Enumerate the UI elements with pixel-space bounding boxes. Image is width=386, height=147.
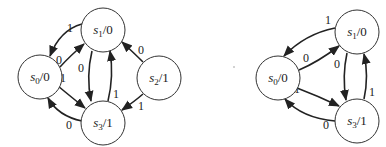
- state-node-s2: s2/1: [137, 56, 181, 100]
- svg-text:s1/0: s1/0: [93, 22, 113, 39]
- scan-dot: [233, 66, 235, 68]
- edge-label-s2-s1: 0: [138, 43, 144, 57]
- edge-label-s3-s0: 0: [66, 118, 72, 132]
- state-output: /0: [357, 24, 367, 39]
- edge-label-s3-s1: 1: [113, 87, 119, 101]
- state-node-s0: s0/0: [18, 55, 62, 99]
- edge-s1-to-s0: [50, 24, 82, 56]
- state-node-s1: s1/0: [335, 10, 379, 54]
- edge-s1-to-s3: [344, 53, 347, 100]
- edge-s1-to-s0: [284, 28, 335, 56]
- edge-s3-to-s1: [108, 51, 112, 101]
- edge-label-s3-s0: 0: [323, 118, 329, 132]
- edge-s1-to-s3: [89, 51, 92, 101]
- edge-label-s2-s3: 1: [138, 99, 144, 113]
- edge-label-s1-s0: 1: [67, 21, 73, 35]
- edge-label-s0-s1: 0: [303, 51, 309, 65]
- state-node-s3: s3/1: [335, 99, 379, 143]
- state-output: /1: [159, 70, 169, 85]
- edge-label-s1-s3: 0: [334, 57, 340, 71]
- state-output: /0: [103, 22, 113, 37]
- edge-label-s1-s0: 1: [325, 13, 331, 27]
- svg-text:s1/0: s1/0: [347, 24, 367, 41]
- svg-text:s3/1: s3/1: [347, 113, 367, 130]
- edge-s0-to-s3: [58, 86, 85, 108]
- state-node-s0: s0/0: [256, 56, 300, 100]
- state-diagrams-canvas: 1 0 1 0 0 1 0 1 s0/0 s1/0 s2/1: [0, 0, 386, 147]
- svg-text:s3/1: s3/1: [93, 115, 113, 132]
- left-state-diagram: 1 0 1 0 0 1 0 1 s0/0 s1/0 s2/1: [18, 8, 181, 145]
- edge-s3-to-s1: [364, 54, 367, 99]
- state-output: /0: [40, 69, 50, 84]
- right-state-diagram: 1 0 1 0 0 1 s0/0 s1/0 s3/1: [256, 10, 379, 143]
- svg-text:s2/1: s2/1: [149, 70, 169, 87]
- edge-label-s1-s3: 0: [78, 61, 84, 75]
- state-output: /1: [357, 113, 367, 128]
- state-node-s1: s1/0: [81, 8, 125, 52]
- state-output: /0: [278, 70, 288, 85]
- state-output: /1: [103, 115, 113, 130]
- state-node-s3: s3/1: [81, 101, 125, 145]
- svg-text:s0/0: s0/0: [30, 69, 50, 86]
- edge-s0-to-s3: [297, 88, 339, 106]
- edge-label-s3-s1: 1: [369, 85, 375, 99]
- svg-text:s0/0: s0/0: [268, 70, 288, 87]
